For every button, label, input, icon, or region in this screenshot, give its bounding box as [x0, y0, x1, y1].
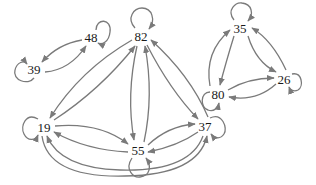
- edge-37-to-55: [148, 132, 198, 152]
- edge-19-to-82: [54, 46, 135, 120]
- node-labels: 48 39 82 35 26 80 19 55 37: [28, 21, 292, 158]
- edge-39-to-48: [45, 46, 86, 72]
- node-39: 39: [28, 62, 41, 77]
- edge-55-to-19: [54, 132, 128, 152]
- edge-35-to-26: [248, 36, 276, 72]
- self-loop-48: [96, 21, 110, 43]
- edge-55-to-82: [144, 46, 149, 142]
- edge-82-to-19: [50, 40, 132, 118]
- self-loop-37: [210, 117, 225, 138]
- self-loop-55: [129, 158, 149, 177]
- graph-diagram: 48 39 82 35 26 80 19 55 37: [0, 0, 316, 185]
- self-loop-26: [289, 74, 301, 91]
- edge-82-to-55: [131, 46, 137, 140]
- node-48: 48: [85, 30, 98, 45]
- edge-55-to-37: [148, 124, 195, 145]
- node-82: 82: [135, 29, 148, 44]
- edge-35-to-80: [220, 36, 234, 85]
- edge-82-to-37: [147, 45, 198, 119]
- self-loop-82: [131, 8, 152, 29]
- node-55: 55: [132, 143, 145, 158]
- node-26: 26: [278, 72, 292, 87]
- edge-80-to-26: [228, 78, 274, 90]
- node-19: 19: [38, 120, 51, 135]
- edges-main-cluster: [23, 8, 225, 177]
- node-80: 80: [212, 87, 225, 102]
- self-loop-19: [23, 117, 38, 139]
- node-35: 35: [234, 21, 247, 36]
- edge-37-to-82: [151, 40, 208, 117]
- edge-26-to-35: [252, 28, 286, 70]
- self-loop-35: [231, 3, 251, 21]
- node-37: 37: [199, 119, 213, 134]
- edge-19-to-55: [55, 125, 128, 144]
